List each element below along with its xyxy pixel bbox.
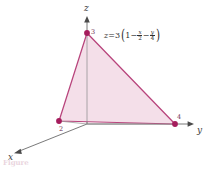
plane-equation-annotation: z = 3 ( 1 − x 2 − y 4 ) <box>104 29 161 43</box>
x-axis-arrow-icon <box>14 149 22 154</box>
plane-triangle-graphic <box>0 0 208 169</box>
equation-open-paren: ( <box>121 29 125 43</box>
equation-equals: = <box>108 32 115 40</box>
equation-coefficient: 3 <box>115 32 120 40</box>
fraction-denominator-2: 2 <box>138 36 143 42</box>
x-intercept-label: 2 <box>59 126 63 133</box>
z-axis-arrow-icon <box>84 16 90 23</box>
z-axis-label: z <box>84 4 89 13</box>
y-axis-label: y <box>197 126 202 135</box>
x-axis-line <box>17 124 87 152</box>
figure-caption: Figure <box>3 159 29 166</box>
equation-close-paren: ) <box>156 29 160 43</box>
vertex-dot-x <box>56 118 62 124</box>
z-intercept-label: 3 <box>91 29 95 36</box>
y-intercept-label: 4 <box>177 114 181 121</box>
vertex-dot-y <box>172 121 178 127</box>
equation-minus-1: − <box>130 32 137 40</box>
fraction-denominator-4: 4 <box>150 36 155 42</box>
equation-minus-2: − <box>143 32 150 40</box>
equation-fraction-x-over-2: x 2 <box>137 30 142 42</box>
vertex-dot-z <box>84 30 90 36</box>
figure-container: z y x 3 2 4 z = 3 ( 1 − x 2 − y 4 ) Figu… <box>0 0 208 169</box>
plane-triangle-region <box>59 33 175 124</box>
y-axis-arrow-icon <box>188 121 194 126</box>
equation-fraction-y-over-4: y 4 <box>150 30 155 42</box>
